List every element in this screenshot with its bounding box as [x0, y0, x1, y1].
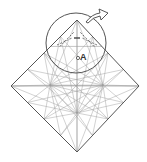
- crease-lines: [11, 20, 139, 152]
- point-a-label: A: [80, 53, 87, 62]
- crease-pattern-diagram: [0, 0, 147, 162]
